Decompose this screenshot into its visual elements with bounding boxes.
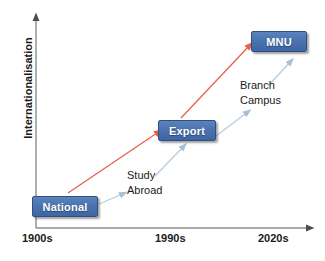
annotation-arrow-study-abroad-from-national	[99, 193, 125, 204]
y-axis-title: Internationalisation	[22, 18, 34, 158]
stage-box-export[interactable]: Export	[158, 120, 216, 141]
x-axis-tick-2020s: 2020s	[258, 232, 289, 244]
diagram-canvas: Internationalisation National Export MNU…	[0, 0, 325, 261]
stage-box-national[interactable]: National	[32, 196, 98, 217]
annotation-branch-campus: Branch Campus	[240, 78, 281, 108]
annotation-arrow-branch-campus-from-export	[216, 111, 249, 136]
annotation-study-abroad: Study Abroad	[127, 168, 162, 198]
x-axis-tick-1990s: 1990s	[155, 232, 186, 244]
stage-box-mnu[interactable]: MNU	[251, 31, 307, 52]
x-axis-tick-1900s: 1900s	[22, 232, 53, 244]
